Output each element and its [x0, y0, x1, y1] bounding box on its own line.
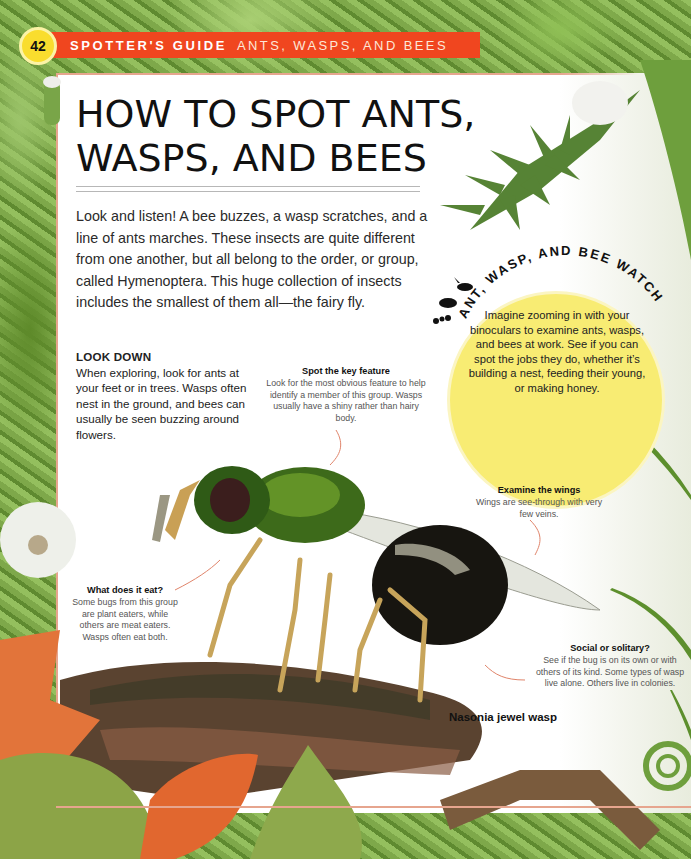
- intro-paragraph: Look and listen! A bee buzzes, a wasp sc…: [76, 206, 431, 314]
- annotation-body: Wings are see-through with very few vein…: [474, 497, 604, 521]
- bottom-rule: [56, 806, 691, 808]
- annotation-heading: Examine the wings: [474, 485, 604, 497]
- annotation-wings: Examine the wings Wings are see-through …: [474, 485, 604, 520]
- annotation-key-feature: Spot the key feature Look for the most o…: [262, 366, 430, 425]
- section-banner: SPOTTER'S GUIDE ANTS, WASPS, AND BEES: [40, 32, 480, 58]
- page-number-badge: 42: [19, 27, 57, 65]
- annotation-social: Social or solitary? See if the bug is on…: [530, 643, 690, 690]
- title-divider: [76, 186, 420, 187]
- annotation-heading: What does it eat?: [70, 585, 180, 597]
- title-line-1: HOW TO SPOT ANTS,: [76, 92, 475, 136]
- bee-icon: [439, 298, 457, 308]
- wasp-icon: [454, 277, 473, 291]
- annotation-body: Look for the most obvious feature to hel…: [262, 378, 430, 425]
- annotation-diet: What does it eat? Some bugs from this gr…: [70, 585, 180, 644]
- annotation-body: Some bugs from this group are plant eate…: [70, 597, 180, 644]
- look-down-body: When exploring, look for ants at your fe…: [76, 365, 251, 443]
- ant-icon: [433, 315, 451, 324]
- annotation-heading: Social or solitary?: [530, 643, 690, 655]
- title-divider: [76, 191, 420, 192]
- look-down-heading: LOOK DOWN: [76, 349, 251, 365]
- topic-label: ANTS, WASPS, AND BEES: [237, 38, 448, 53]
- annotation-body: See if the bug is on its own or with oth…: [530, 655, 690, 690]
- annotation-heading: Spot the key feature: [262, 366, 430, 378]
- illustration-caption: Nasonia jewel wasp: [449, 711, 557, 723]
- section-label: SPOTTER'S GUIDE: [70, 38, 227, 53]
- watch-callout-body: Imagine zooming in with your binoculars …: [467, 308, 647, 395]
- look-down-section: LOOK DOWN When exploring, look for ants …: [76, 349, 251, 443]
- page-title: HOW TO SPOT ANTS, WASPS, AND BEES: [76, 92, 496, 180]
- title-line-2: WASPS, AND BEES: [76, 136, 427, 180]
